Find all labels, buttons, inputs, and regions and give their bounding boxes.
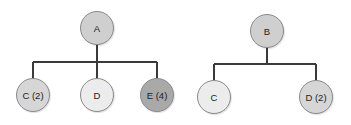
- tree1-child-node-e: E (4): [140, 78, 174, 112]
- node-label: C (2): [22, 90, 43, 101]
- connector-lines: [0, 0, 351, 125]
- node-label: D (2): [305, 92, 326, 103]
- tree2-root-node-b: B: [250, 14, 284, 48]
- node-label: C: [211, 92, 218, 103]
- node-label: E (4): [147, 90, 168, 101]
- tree1-root-node-a: A: [80, 11, 114, 45]
- node-label: A: [94, 23, 100, 34]
- tree2-child-node-c: C: [197, 80, 231, 114]
- tree1-child-node-c: C (2): [16, 78, 50, 112]
- node-label: B: [264, 26, 270, 37]
- node-label: D: [94, 90, 101, 101]
- tree2-child-node-d: D (2): [299, 80, 333, 114]
- tree1-child-node-d: D: [80, 78, 114, 112]
